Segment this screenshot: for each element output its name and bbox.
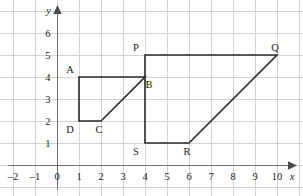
y-tick-label: 1 <box>45 138 50 149</box>
x-tick-label: 3 <box>120 171 125 182</box>
y-axis-name-label: y <box>45 5 51 16</box>
x-tick-label: 1 <box>76 171 81 182</box>
x-axis-name-label: x <box>289 171 295 182</box>
x-tick-label: 9 <box>252 171 257 182</box>
axis-lines <box>8 5 297 190</box>
x-tick-label: 0 <box>54 171 59 182</box>
vertex-label-s: S <box>133 146 139 157</box>
y-axis-arrowhead-icon <box>53 5 61 14</box>
vertex-label-a: A <box>66 64 74 75</box>
x-tick-label: 5 <box>164 171 169 182</box>
vertex-label-p: P <box>133 42 139 53</box>
y-tick-label: 6 <box>45 28 50 39</box>
y-tick-label: 2 <box>45 116 50 127</box>
vertex-label-r: R <box>183 146 190 157</box>
x-tick-label: –2 <box>7 171 19 182</box>
axis-name-labels: xy <box>45 5 295 182</box>
vertex-label-c: C <box>95 124 102 135</box>
vertex-label-b: B <box>145 79 152 90</box>
x-axis-arrowhead-icon <box>288 161 297 169</box>
plot-svg: –2–1012345678910123456 ABCDPQRS xy <box>0 0 303 196</box>
y-tick-label: 5 <box>45 50 50 61</box>
vertex-label-q: Q <box>271 42 279 53</box>
x-tick-label: –1 <box>29 171 41 182</box>
coordinate-grid-figure: –2–1012345678910123456 ABCDPQRS xy <box>0 0 303 196</box>
y-tick-label: 4 <box>45 72 51 83</box>
y-tick-label: 3 <box>45 94 50 105</box>
x-tick-label: 7 <box>208 171 213 182</box>
x-tick-label: 8 <box>230 171 235 182</box>
x-tick-label: 10 <box>272 171 283 182</box>
x-tick-label: 2 <box>98 171 103 182</box>
x-tick-label: 4 <box>142 171 148 182</box>
x-tick-label: 6 <box>186 171 191 182</box>
vertex-label-d: D <box>66 124 74 135</box>
